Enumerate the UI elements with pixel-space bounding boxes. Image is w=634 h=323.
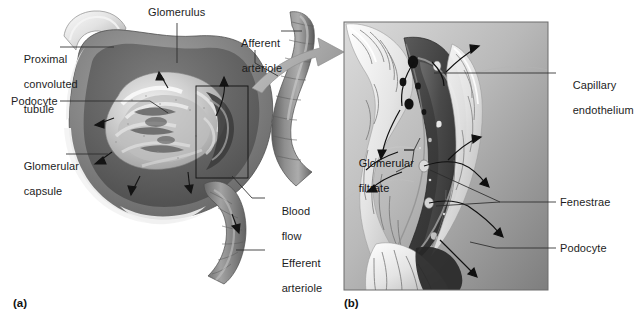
label-proximal-convoluted-tubule: Proximal convoluted tubule bbox=[11, 40, 78, 128]
label-glomerular-capsule: Glomerular capsule bbox=[11, 147, 79, 210]
label-podocyte-panel-a: Podocyte bbox=[11, 95, 58, 108]
label-blood-flow-line1: Blood bbox=[282, 205, 311, 217]
label-blood-flow-line2: flow bbox=[282, 230, 302, 242]
label-afferent-arteriole-line1: Afferent bbox=[241, 37, 280, 49]
label-pct-line1: Proximal bbox=[24, 53, 68, 65]
label-efferent-arteriole: Efferent arteriole bbox=[269, 244, 322, 307]
label-afferent-arteriole: Afferent arteriole bbox=[229, 24, 282, 87]
label-capillary-endothelium: Capillary endothelium bbox=[560, 66, 634, 129]
label-afferent-arteriole-line2: arteriole bbox=[242, 62, 283, 74]
panel-b-caption: (b) bbox=[344, 297, 359, 309]
label-pct-line2: convoluted bbox=[24, 78, 78, 90]
label-glomerular-capsule-line2: capsule bbox=[24, 185, 63, 197]
label-glomerular-filtrate-line2: filtrate bbox=[359, 182, 390, 194]
label-efferent-arteriole-line2: arteriole bbox=[282, 282, 323, 294]
label-glomerulus: Glomerulus bbox=[148, 6, 205, 19]
label-capillary-endothelium-line1: Capillary bbox=[573, 79, 617, 91]
label-glomerular-filtrate-line1: Glomerular bbox=[359, 157, 414, 169]
label-efferent-arteriole-line1: Efferent bbox=[282, 257, 321, 269]
label-fenestrae: Fenestrae bbox=[560, 196, 610, 209]
label-glomerular-filtrate: Glomerular filtrate bbox=[346, 144, 414, 207]
label-glomerular-capsule-line1: Glomerular bbox=[24, 160, 79, 172]
panel-a-caption: (a) bbox=[13, 297, 27, 309]
label-podocyte-panel-b: Podocyte bbox=[560, 242, 607, 255]
label-capillary-endothelium-line2: endothelium bbox=[573, 104, 634, 116]
